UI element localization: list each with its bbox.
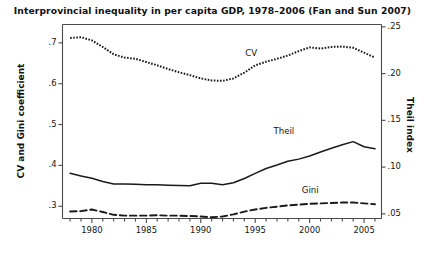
series-line-cv	[70, 37, 375, 81]
y-tick-left-.3: .3	[31, 200, 57, 210]
y-tick-right-.20: .20	[388, 68, 414, 78]
y-tick-left-.4: .4	[31, 159, 57, 169]
y-axis-left-title: CV and Gini coefficient	[16, 56, 26, 186]
series-label-gini: Gini	[302, 185, 319, 195]
data-series	[70, 37, 375, 217]
y-tick-right-.15: .15	[388, 114, 414, 124]
series-label-theil: Theil	[274, 126, 295, 136]
axes-frame	[63, 25, 382, 219]
y-tick-right-.25: .25	[388, 21, 414, 31]
chart-figure: Interprovincial inequality in per capita…	[0, 0, 425, 260]
y-tick-left-.7: .7	[31, 37, 57, 47]
axis-ticks	[59, 27, 386, 223]
y-tick-right-.05: .05	[388, 208, 414, 218]
x-tick-1990: 1990	[181, 225, 221, 235]
y-tick-right-.10: .10	[388, 161, 414, 171]
series-line-gini	[70, 203, 375, 218]
x-tick-2000: 2000	[290, 225, 330, 235]
y-tick-left-.5: .5	[31, 119, 57, 129]
x-tick-2005: 2005	[344, 225, 384, 235]
plot-area	[0, 0, 425, 260]
x-tick-1980: 1980	[72, 225, 112, 235]
x-tick-1995: 1995	[235, 225, 275, 235]
y-tick-left-.6: .6	[31, 78, 57, 88]
series-label-cv: CV	[245, 48, 257, 58]
series-line-theil	[70, 142, 375, 186]
x-tick-1985: 1985	[126, 225, 166, 235]
